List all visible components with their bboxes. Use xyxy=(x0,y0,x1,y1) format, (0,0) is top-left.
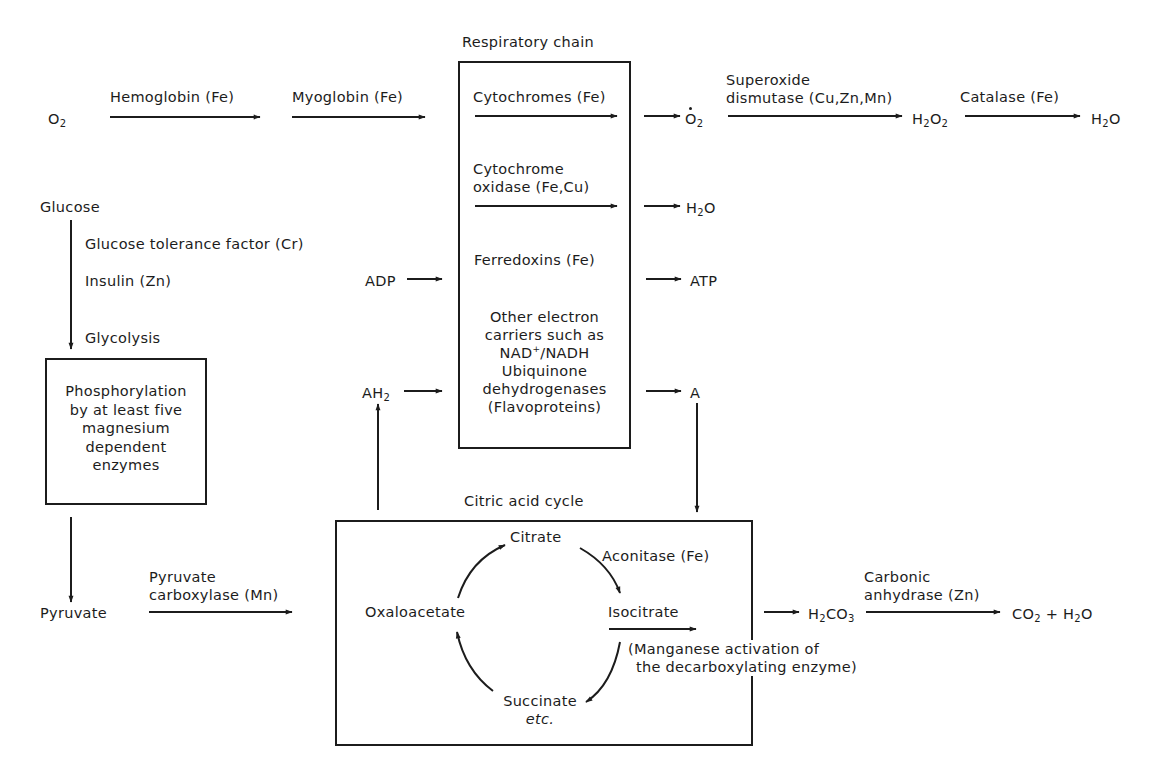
catalase-label: Catalase (Fe) xyxy=(960,88,1059,106)
hemoglobin-label: Hemoglobin (Fe) xyxy=(110,88,234,106)
cycle-arc-isocitrate-to-succinate xyxy=(586,642,620,702)
atp-label: ATP xyxy=(690,272,717,290)
a-label: A xyxy=(690,384,700,402)
carbonic-acid-label: H2CO3 xyxy=(808,605,855,623)
pyruvate-label: Pyruvate xyxy=(40,604,107,622)
isocitrate-label: Isocitrate xyxy=(608,603,679,621)
oxygen-label: O2 xyxy=(48,110,66,128)
insulin-label: Insulin (Zn) xyxy=(85,272,171,290)
carbonic-anhydrase-label: Carbonicanhydrase (Zn) xyxy=(864,568,980,604)
succinate-label: Succinateetc. xyxy=(490,692,590,728)
carbon-dioxide-water-label: CO2 + H2O xyxy=(1012,605,1093,623)
water-label-middle: H2O xyxy=(686,199,716,217)
cytochromes-label: Cytochromes (Fe) xyxy=(473,88,606,106)
myoglobin-label: Myoglobin (Fe) xyxy=(292,88,403,106)
ferredoxins-label: Ferredoxins (Fe) xyxy=(474,251,595,269)
glucose-label: Glucose xyxy=(40,198,100,216)
glucose-tolerance-factor-label: Glucose tolerance factor (Cr) xyxy=(85,235,304,253)
pyruvate-carboxylase-label: Pyruvatecarboxylase (Mn) xyxy=(149,568,278,604)
citrate-label: Citrate xyxy=(510,528,561,546)
superoxide-dismutase-label: Superoxidedismutase (Cu,Zn,Mn) xyxy=(726,71,892,107)
oxaloacetate-label: Oxaloacetate xyxy=(365,603,465,621)
glycolysis-label: Glycolysis xyxy=(85,329,160,347)
other-electron-carriers-label: Other electroncarriers such asNAD+/NADHU… xyxy=(459,308,630,416)
citric-acid-cycle-title: Citric acid cycle xyxy=(464,492,584,510)
respiratory-chain-title: Respiratory chain xyxy=(462,33,594,51)
adp-label: ADP xyxy=(365,272,396,290)
ah2-label: AH2 xyxy=(362,384,390,402)
aconitase-label: Aconitase (Fe) xyxy=(602,547,709,565)
phosphorylation-label: Phosphorylationby at least fivemagnesium… xyxy=(46,382,206,475)
trace-element-metabolism-diagram: O2 Hemoglobin (Fe) Myoglobin (Fe) Respir… xyxy=(0,0,1163,779)
cycle-arc-succinate-to-oxaloacetate xyxy=(457,632,493,691)
manganese-activation-label: (Manganese activation ofthe decarboxylat… xyxy=(628,640,857,676)
superoxide-radical-label: O2 xyxy=(685,110,703,128)
etc-label: etc. xyxy=(526,711,554,727)
cycle-arc-oxaloacetate-to-citrate xyxy=(458,545,505,598)
water-label-top: H2O xyxy=(1091,110,1121,128)
hydrogen-peroxide-label: H2O2 xyxy=(912,110,948,128)
cytochrome-oxidase-label: Cytochromeoxidase (Fe,Cu) xyxy=(473,160,589,196)
